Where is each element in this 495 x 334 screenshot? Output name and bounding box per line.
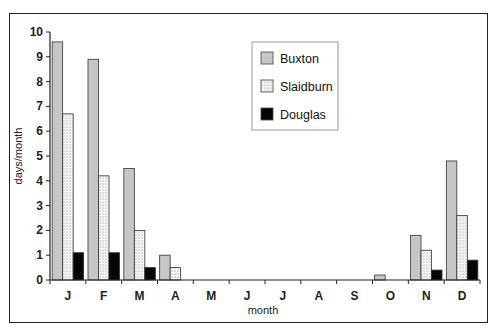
bar-chart: JFMAMJJASOND012345678910 days/month mont… <box>0 0 495 334</box>
bar-buxton <box>88 59 99 280</box>
x-tick-label: A <box>314 289 323 303</box>
bar-buxton <box>52 42 63 280</box>
bar-douglas <box>467 260 478 280</box>
bar-slaidburn <box>99 176 110 280</box>
y-tick-label: 5 <box>36 149 43 163</box>
bar-buxton <box>375 275 386 280</box>
bar-slaidburn <box>134 230 145 280</box>
x-tick-label: J <box>280 289 287 303</box>
legend-label-slaidburn: Slaidburn <box>280 80 333 94</box>
x-tick-label: M <box>206 289 216 303</box>
legend: BuxtonSlaidburnDouglas <box>252 42 338 130</box>
legend-label-douglas: Douglas <box>280 108 326 122</box>
legend-label-buxton: Buxton <box>280 52 319 66</box>
x-tick-label: D <box>458 289 467 303</box>
legend-swatch-buxton <box>261 52 273 64</box>
x-tick-label: O <box>386 289 395 303</box>
legend-swatch-douglas <box>261 108 273 120</box>
y-tick-label: 2 <box>36 223 43 237</box>
bar-douglas <box>432 270 443 280</box>
x-tick-label: J <box>244 289 251 303</box>
bar-slaidburn <box>421 250 432 280</box>
x-axis-title: month <box>248 304 279 316</box>
y-axis-title: days/month <box>12 128 24 185</box>
y-tick-label: 1 <box>36 248 43 262</box>
bar-douglas <box>73 253 84 280</box>
bar-douglas <box>145 268 156 280</box>
y-tick-label: 9 <box>36 50 43 64</box>
x-tick-label: F <box>100 289 107 303</box>
x-tick-label: N <box>422 289 431 303</box>
bar-slaidburn <box>63 114 74 280</box>
y-tick-label: 8 <box>36 75 43 89</box>
bar-slaidburn <box>457 216 468 280</box>
bar-douglas <box>109 253 120 280</box>
bar-buxton <box>160 255 171 280</box>
bar-buxton <box>124 168 135 280</box>
x-tick-label: A <box>171 289 180 303</box>
bar-slaidburn <box>170 268 181 280</box>
legend-swatch-slaidburn <box>261 80 273 92</box>
y-tick-label: 3 <box>36 199 43 213</box>
y-tick-label: 6 <box>36 124 43 138</box>
x-tick-label: J <box>65 289 72 303</box>
bar-buxton <box>411 235 422 280</box>
y-tick-label: 7 <box>36 99 43 113</box>
bar-buxton <box>446 161 457 280</box>
y-tick-label: 0 <box>36 273 43 287</box>
y-tick-label: 4 <box>36 174 43 188</box>
y-tick-label: 10 <box>30 25 44 39</box>
x-tick-label: M <box>135 289 145 303</box>
x-tick-label: S <box>351 289 359 303</box>
